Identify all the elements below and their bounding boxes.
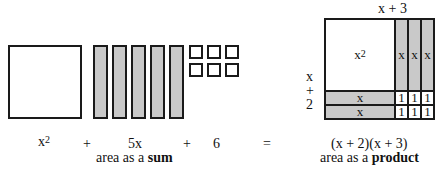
term-x-squared: x2 bbox=[38, 135, 50, 149]
unit-cell: 1 bbox=[409, 106, 422, 118]
unit-tile bbox=[189, 45, 203, 59]
product-expression: (x + 2)(x + 3) bbox=[331, 137, 407, 151]
unit-tile bbox=[207, 63, 221, 77]
plus-sign-1: + bbox=[83, 137, 91, 151]
unit-tile bbox=[225, 45, 239, 59]
equals-sign: = bbox=[263, 137, 271, 151]
x-bar-tile bbox=[131, 45, 146, 119]
x-bar-tile bbox=[169, 45, 184, 119]
plus-sign-2: + bbox=[183, 137, 191, 151]
big-x-squared-cell: x2 bbox=[326, 20, 396, 92]
side-dimension-2: 2 bbox=[306, 98, 313, 112]
top-dimension-label: x + 3 bbox=[378, 2, 407, 16]
x-bar-tile bbox=[150, 45, 165, 119]
x-squared-tile bbox=[8, 45, 82, 119]
side-dimension-plus: + bbox=[306, 84, 314, 98]
x-bar-tile bbox=[93, 45, 108, 119]
unit-cell: 1 bbox=[396, 106, 409, 118]
unit-cell: 1 bbox=[422, 106, 433, 118]
unit-tile bbox=[225, 63, 239, 77]
sum-caption: area as a sum bbox=[96, 151, 173, 165]
product-rectangle: x2 x x x x x 1 1 1 1 1 1 bbox=[324, 18, 435, 120]
unit-tile bbox=[189, 63, 203, 77]
product-caption: area as a product bbox=[320, 151, 419, 165]
unit-tile bbox=[207, 45, 221, 59]
column-x-cell: x bbox=[422, 20, 433, 92]
term-6: 6 bbox=[213, 137, 220, 151]
column-x-cell: x bbox=[409, 20, 422, 92]
column-x-cell: x bbox=[396, 20, 409, 92]
side-dimension-x: x bbox=[306, 70, 313, 84]
x-bar-tile bbox=[112, 45, 127, 119]
big-cell-label: x2 bbox=[354, 49, 366, 61]
term-5x: 5x bbox=[128, 137, 142, 151]
row-x-cell: x bbox=[326, 106, 396, 118]
